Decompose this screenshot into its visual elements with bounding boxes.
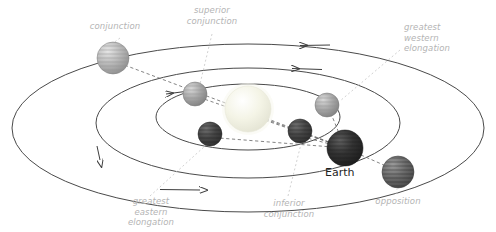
leader-greatest-eastern-elongation	[150, 146, 205, 196]
label-opposition: opposition	[358, 196, 438, 207]
body-sun	[222, 83, 274, 135]
body-earth	[327, 130, 363, 166]
body-outer-planet-opposition	[382, 156, 414, 188]
label-superior-conjunction: superior conjunction	[168, 5, 256, 26]
diagram-canvas: conjunction superior conjunction greates…	[0, 0, 496, 232]
label-greatest-western-elongation: greatest western elongation	[404, 22, 488, 54]
label-greatest-eastern-elongation: greatest eastern elongation	[110, 196, 192, 228]
body-inner-planet-superior-conjunction	[183, 82, 207, 106]
leader-greatest-western-elongation	[340, 50, 400, 101]
body-outer-planet-conjunction	[97, 42, 129, 74]
label-earth: Earth	[325, 166, 355, 179]
label-conjunction: conjunction	[74, 21, 156, 32]
leader-superior-conjunction	[200, 34, 212, 84]
leader-inferior-conjunction	[288, 144, 301, 196]
body-inner-planet-greatest-eastern-elongation	[198, 122, 222, 146]
body-inner-planet-greatest-western-elongation	[315, 93, 339, 117]
label-inferior-conjunction: inferior conjunction	[248, 198, 330, 219]
body-inner-planet-inferior-conjunction	[288, 119, 312, 143]
